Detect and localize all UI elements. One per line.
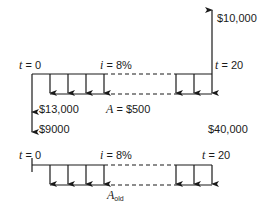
t-value: = 20 <box>218 59 243 71</box>
top-t-end-label: t = 20 <box>215 59 243 71</box>
top-timeline <box>32 74 212 94</box>
a-subscript: old <box>114 195 123 202</box>
t-value: = 0 <box>22 59 41 71</box>
bottom-annuity-arrows <box>50 165 212 184</box>
value-40000-label: $40,000 <box>208 123 248 135</box>
top-annuity-label: A = $500 <box>106 103 150 115</box>
bottom-t-start-label: t = 0 <box>19 149 41 161</box>
bottom-interest-label: i = 8% <box>100 149 132 161</box>
i-value: = 8% <box>103 149 131 161</box>
bottom-annuity-label: Aold <box>107 189 124 205</box>
t-value: = 20 <box>205 149 230 161</box>
a-value: = $500 <box>113 103 150 115</box>
i-value: = 8% <box>103 59 131 71</box>
bottom-t-end-label: t = 20 <box>202 149 230 161</box>
top-interest-label: i = 8% <box>100 59 132 71</box>
top-annuity-arrows <box>50 74 212 93</box>
inflow-10000-label: $10,000 <box>217 12 257 24</box>
outflow-13000-label: $13,000 <box>39 103 79 115</box>
top-t-start-label: t = 0 <box>19 59 41 71</box>
outflow-9000-label: $9000 <box>39 123 70 135</box>
bottom-timeline <box>32 158 212 185</box>
t-value: = 0 <box>22 149 41 161</box>
